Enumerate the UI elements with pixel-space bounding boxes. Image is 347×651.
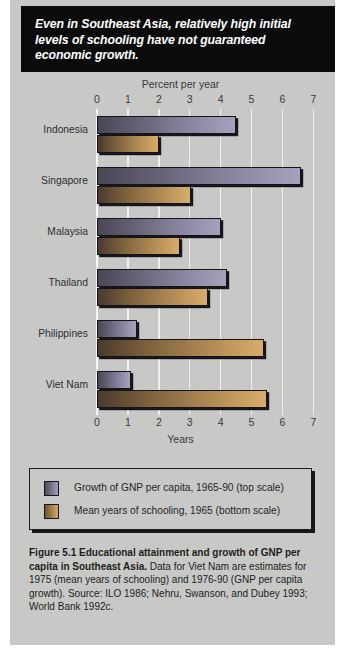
top-axis-title: Percent per year: [7, 78, 347, 90]
legend-label-gnp: Growth of GNP per capita, 1965-90 (top s…: [74, 482, 284, 493]
top-axis-tick-3: 3: [181, 93, 199, 105]
bar-gnp-viet-nam: [97, 371, 131, 389]
bar-schooling-malaysia: [97, 237, 180, 255]
category-label-indonesia: Indonesia: [0, 124, 88, 135]
headline-banner: Even in Southeast Asia, relatively high …: [21, 6, 335, 72]
bar-group: Philippines: [0, 313, 347, 364]
legend-swatch-gnp-icon: [44, 481, 59, 496]
bar-group: Indonesia: [0, 109, 347, 160]
figure-caption: Figure 5.1 Educational attainment and gr…: [29, 546, 317, 614]
legend-swatch-schooling-icon: [44, 504, 59, 519]
top-axis-tick-6: 6: [273, 93, 291, 105]
bottom-axis-tick-1: 1: [119, 416, 137, 428]
category-label-malaysia: Malaysia: [0, 226, 88, 237]
bottom-axis-tick-3: 3: [181, 416, 199, 428]
bar-schooling-indonesia: [97, 135, 159, 153]
category-label-singapore: Singapore: [0, 175, 88, 186]
top-axis-tick-2: 2: [150, 93, 168, 105]
bar-gnp-malaysia: [97, 218, 221, 236]
bar-schooling-singapore: [97, 186, 191, 204]
top-axis-tick-1: 1: [119, 93, 137, 105]
headline-text: Even in Southeast Asia, relatively high …: [35, 17, 321, 64]
category-label-viet-nam: Viet Nam: [0, 379, 88, 390]
bar-schooling-philippines: [97, 339, 264, 357]
bar-schooling-viet-nam: [97, 390, 267, 408]
top-axis-ticks: 01234567: [0, 93, 347, 107]
bottom-axis-tick-2: 2: [150, 416, 168, 428]
bar-schooling-thailand: [97, 288, 208, 306]
bottom-axis-tick-7: 7: [304, 416, 322, 428]
bar-gnp-philippines: [97, 320, 137, 338]
figure-container: Even in Southeast Asia, relatively high …: [0, 0, 347, 651]
top-axis-tick-7: 7: [304, 93, 322, 105]
bottom-axis-tick-6: 6: [273, 416, 291, 428]
category-label-thailand: Thailand: [0, 277, 88, 288]
legend-label-schooling: Mean years of schooling, 1965 (bottom sc…: [74, 505, 280, 516]
bar-group: Viet Nam: [0, 364, 347, 415]
bar-group: Thailand: [0, 262, 347, 313]
bottom-axis-tick-4: 4: [212, 416, 230, 428]
bar-chart: Percent per year 01234567 IndonesiaSinga…: [0, 78, 347, 448]
category-label-philippines: Philippines: [0, 328, 88, 339]
bar-gnp-thailand: [97, 269, 227, 287]
plot-area: IndonesiaSingaporeMalaysiaThailandPhilip…: [0, 109, 347, 415]
bottom-axis-title: Years: [7, 433, 347, 445]
bar-gnp-singapore: [97, 167, 301, 185]
bottom-axis-tick-0: 0: [88, 416, 106, 428]
bar-gnp-indonesia: [97, 116, 236, 134]
chart-legend: Growth of GNP per capita, 1965-90 (top s…: [29, 468, 312, 530]
bar-group: Singapore: [0, 160, 347, 211]
bottom-axis-ticks: 01234567: [0, 416, 347, 430]
bottom-axis-tick-5: 5: [243, 416, 261, 428]
top-axis-tick-5: 5: [243, 93, 261, 105]
top-axis-tick-4: 4: [212, 93, 230, 105]
bar-group: Malaysia: [0, 211, 347, 262]
top-axis-tick-0: 0: [88, 93, 106, 105]
